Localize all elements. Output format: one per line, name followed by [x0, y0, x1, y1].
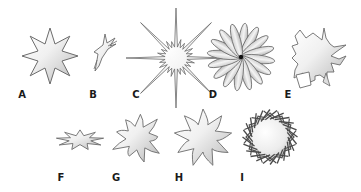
label-b: B [89, 90, 97, 100]
star-e-irregular [292, 28, 346, 88]
label-a: A [18, 90, 26, 100]
star-f-flattened [56, 130, 103, 150]
label-i: I [240, 173, 244, 183]
star-d-flower [207, 23, 276, 92]
label-e: E [285, 90, 292, 100]
star-h-pinwheel [174, 109, 231, 165]
star-a-8-point [22, 28, 78, 84]
label-c: C [132, 90, 139, 100]
star-i-spiky-wreath [243, 110, 298, 165]
label-f: F [58, 173, 65, 183]
shapes-canvas [0, 0, 361, 192]
label-d: D [209, 90, 217, 100]
label-h: H [175, 173, 183, 183]
star-b-collapsed [94, 34, 117, 71]
label-g: G [112, 173, 120, 183]
star-g-curvy [113, 114, 160, 162]
